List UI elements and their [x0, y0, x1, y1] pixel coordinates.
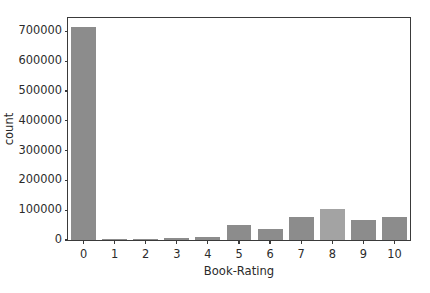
y-tick-label: 100000	[19, 202, 62, 216]
y-tick-label: 700000	[19, 23, 62, 37]
x-tick-mark	[83, 240, 84, 244]
bar	[258, 229, 283, 240]
y-tick-label: 0	[55, 232, 62, 246]
x-tick-mark	[269, 240, 270, 244]
bar-chart-figure: 0100000200000300000400000500000600000700…	[0, 0, 430, 293]
y-tick-label: 400000	[19, 113, 62, 127]
y-tick-mark	[65, 210, 69, 211]
x-tick-mark	[394, 240, 395, 244]
plot-area	[68, 18, 410, 240]
y-tick-mark	[65, 150, 69, 151]
x-tick-mark	[301, 240, 302, 244]
x-tick-label: 10	[374, 247, 414, 261]
bar	[227, 225, 252, 240]
y-tick-mark	[65, 90, 69, 91]
x-tick-mark	[207, 240, 208, 244]
x-tick-mark	[114, 240, 115, 244]
x-axis-label: Book-Rating	[67, 264, 411, 278]
y-tick-mark	[65, 31, 69, 32]
x-tick-mark	[238, 240, 239, 244]
x-tick-mark	[332, 240, 333, 244]
bar	[71, 27, 96, 240]
y-tick-label: 500000	[19, 83, 62, 97]
y-axis-label: count	[2, 113, 16, 146]
x-tick-mark	[363, 240, 364, 244]
bar	[382, 217, 407, 240]
y-tick-mark	[65, 239, 69, 240]
y-tick-label: 600000	[19, 53, 62, 67]
x-tick-mark	[176, 240, 177, 244]
y-tick-label: 300000	[19, 143, 62, 157]
x-tick-mark	[145, 240, 146, 244]
bar	[289, 217, 314, 240]
y-tick-mark	[65, 120, 69, 121]
y-tick-mark	[65, 61, 69, 62]
plot-axes-frame: 0100000200000300000400000500000600000700…	[67, 17, 411, 241]
y-tick-mark	[65, 180, 69, 181]
bar	[320, 209, 345, 240]
y-tick-label: 200000	[19, 172, 62, 186]
bar	[351, 220, 376, 240]
